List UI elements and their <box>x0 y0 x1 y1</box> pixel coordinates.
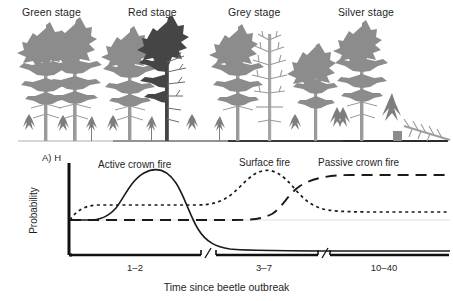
axis-break-marks <box>205 248 328 258</box>
x-tick-label-10-40: 10–40 <box>354 262 414 273</box>
curve-passive-crown-fire <box>70 175 450 220</box>
x-tick-label-1-2: 1–2 <box>105 262 165 273</box>
stage-label-green: Green stage <box>22 6 81 18</box>
dead-tree-red <box>137 15 189 141</box>
curve-active-crown-fire <box>70 170 450 251</box>
fire-probability-chart <box>0 150 453 301</box>
curve-surface-fire <box>70 170 450 220</box>
forest-stage-illustration-panel <box>0 0 453 150</box>
panel-label: A) H <box>42 152 61 163</box>
y-axis-title: Probability <box>28 166 39 256</box>
curve-label-surface-fire: Surface fire <box>239 157 290 168</box>
beetle-outbreak-fire-figure: Green stage Red stage Grey stage Silver … <box>0 0 453 301</box>
fallen-log-silver <box>393 119 450 141</box>
stage-illustration-grey <box>209 24 344 141</box>
stage-illustration-green <box>17 17 102 141</box>
curve-label-passive-crown-fire: Passive crown fire <box>318 157 399 168</box>
x-axis-title: Time since beetle outbreak <box>0 281 453 293</box>
curve-label-active-crown-fire: Active crown fire <box>98 159 171 170</box>
stage-label-grey: Grey stage <box>228 6 280 18</box>
stage-illustration-red <box>101 15 198 141</box>
stage-label-red: Red stage <box>128 6 177 18</box>
stage-label-silver: Silver stage <box>338 6 394 18</box>
x-tick-label-3-7: 3–7 <box>234 262 294 273</box>
stage-illustration-silver <box>333 20 450 141</box>
